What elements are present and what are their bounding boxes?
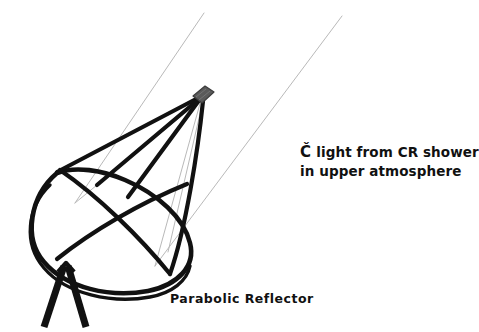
cherenkov-label-line-2: in upper atmosphere bbox=[300, 162, 479, 181]
mount-leg-right bbox=[68, 266, 86, 327]
mount-leg-left bbox=[44, 266, 64, 327]
cherenkov-label-line-1-text: light from CR shower bbox=[312, 144, 479, 160]
cherenkov-label-line-1: Č light from CR shower bbox=[300, 143, 479, 162]
dish-rim-front bbox=[32, 169, 191, 293]
parabolic-reflector-label: Parabolic Reflector bbox=[170, 291, 314, 307]
cherenkov-symbol: Č bbox=[300, 143, 312, 161]
dish-rim-depth bbox=[30, 185, 190, 299]
cherenkov-light-label: Č light from CR shower in upper atmosphe… bbox=[300, 143, 479, 181]
incoming-ray-left bbox=[75, 13, 204, 203]
parabolic-dish bbox=[30, 169, 191, 299]
